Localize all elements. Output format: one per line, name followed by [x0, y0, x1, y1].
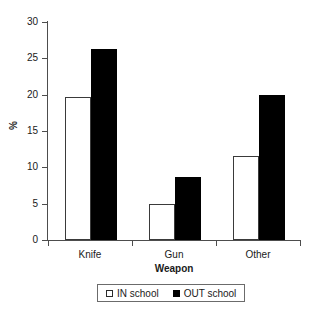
x-tick-gun-other: [216, 241, 217, 246]
legend-label-out-school: OUT school: [184, 288, 237, 299]
black-square-icon: [173, 290, 180, 297]
x-tick-label-knife: Knife: [48, 249, 132, 260]
x-tick-label-gun: Gun: [132, 249, 216, 260]
x-tick-label-other: Other: [216, 249, 300, 260]
bar-chart: % 30 25 20 15 10 5 0 Knife Gun Other Wea…: [0, 0, 316, 314]
y-tick-label-15: 15: [8, 126, 38, 136]
bar-knife-in-school: [65, 97, 91, 240]
x-tick-end: [300, 241, 301, 246]
chart-legend: IN school OUT school: [97, 284, 245, 302]
y-tick-label-5: 5: [8, 199, 38, 209]
y-tick-label-0: 0: [8, 235, 38, 245]
legend-entry-in-school: IN school: [106, 288, 159, 299]
plot-area: [48, 22, 300, 240]
y-tick-label-30: 30: [8, 17, 38, 27]
bar-other-in-school: [233, 156, 259, 240]
y-tick-label-10: 10: [8, 162, 38, 172]
x-tick-knife-gun: [132, 241, 133, 246]
y-tick-label-20: 20: [8, 90, 38, 100]
bar-gun-in-school: [149, 204, 175, 240]
bar-other-out-school: [259, 95, 285, 240]
bar-gun-out-school: [175, 177, 201, 240]
x-axis-line: [47, 240, 301, 241]
bar-knife-out-school: [91, 49, 117, 240]
x-axis-title: Weapon: [48, 263, 300, 274]
x-tick-start: [48, 241, 49, 246]
legend-label-in-school: IN school: [117, 288, 159, 299]
legend-entry-out-school: OUT school: [173, 288, 237, 299]
white-square-icon: [106, 290, 113, 297]
y-tick-label-25: 25: [8, 53, 38, 63]
